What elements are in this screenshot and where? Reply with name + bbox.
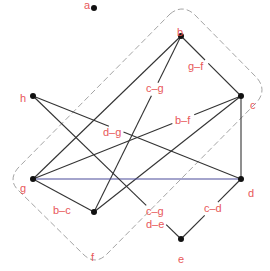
edge-b-f: [158, 36, 181, 83]
edge-c-g: [194, 96, 241, 115]
edge-h-e: [166, 225, 181, 239]
edge-h-d: [33, 96, 109, 126]
node-a: [91, 5, 97, 11]
edge-label: b–c: [53, 204, 71, 216]
edge-b-f: [94, 96, 151, 212]
node-h: [30, 93, 36, 99]
node-label-c: c: [250, 99, 256, 111]
node-label-b: b: [177, 26, 183, 38]
graph-diagram: abcdefghg–fc–gb–fd–gb–cc–gd–ec–d: [0, 0, 270, 271]
node-g: [30, 176, 36, 182]
node-label-d: d: [248, 187, 254, 199]
edge-d-e: [218, 179, 241, 202]
node-d: [238, 176, 244, 182]
node-label-e: e: [178, 253, 184, 265]
edge-b-c: [208, 63, 241, 96]
edge-c-f: [94, 96, 241, 212]
node-f: [91, 209, 97, 215]
cluster-outline: [13, 9, 262, 260]
node-label-f: f: [91, 251, 95, 263]
edge-label: c–g: [146, 205, 164, 217]
edge-label: c–g: [146, 82, 164, 94]
edge-label: d–e: [146, 218, 164, 230]
edge-label: g–f: [188, 60, 204, 72]
edge-label: b–f: [175, 114, 191, 126]
edge-h-e: [33, 96, 146, 205]
edge-label: d–g: [103, 126, 121, 138]
edge-h-d: [123, 132, 241, 179]
node-c: [238, 93, 244, 99]
node-label-a: a: [84, 0, 91, 11]
node-e: [178, 236, 184, 242]
labels: abcdefghg–fc–gb–fd–gb–cc–gd–ec–d: [20, 0, 256, 265]
edge-b-g: [33, 36, 181, 179]
edge-label: c–d: [204, 202, 222, 214]
node-label-g: g: [20, 182, 26, 194]
edge-b-c: [181, 36, 205, 60]
edge-d-e: [181, 215, 205, 239]
node-label-h: h: [20, 92, 26, 104]
